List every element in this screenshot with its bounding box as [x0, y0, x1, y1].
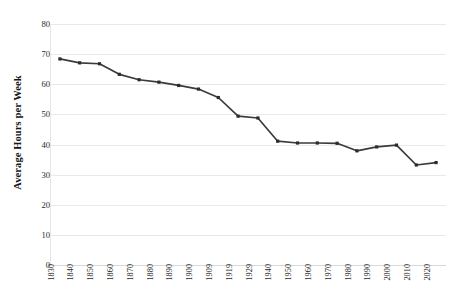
- data-point-marker: [395, 144, 398, 147]
- data-point-marker: [415, 163, 418, 166]
- data-series-line: [50, 24, 446, 265]
- x-axis-tick-label-text: 1840: [67, 264, 75, 281]
- data-point-marker: [118, 73, 121, 76]
- x-axis-tick-label-text: 1970: [325, 264, 333, 281]
- x-axis-tick-label-text: 1830: [47, 264, 55, 281]
- y-axis-tick-label: 50: [28, 110, 50, 119]
- x-axis-tick-label-text: 2010: [404, 264, 412, 281]
- data-point-marker: [296, 141, 299, 144]
- data-point-marker: [157, 81, 160, 84]
- y-axis-title: Average Hours per Week: [6, 0, 28, 265]
- data-point-marker: [316, 141, 319, 144]
- data-point-marker: [138, 78, 141, 81]
- x-axis-tick-label-text: 1919: [226, 264, 234, 281]
- data-point-marker: [256, 116, 259, 119]
- plot-area: [50, 24, 446, 265]
- x-axis-tick-label-text: 1890: [166, 264, 174, 281]
- data-point-marker: [375, 145, 378, 148]
- y-axis-tick-label: 20: [28, 200, 50, 209]
- data-point-marker: [177, 84, 180, 87]
- data-point-marker: [336, 142, 339, 145]
- x-axis-tick-label-text: 1960: [305, 264, 313, 281]
- data-point-marker: [276, 140, 279, 143]
- x-axis-tick-label: 2020: [416, 268, 456, 276]
- line-chart: Average Hours per Week 01020304050607080…: [0, 0, 463, 307]
- y-axis-tick-label: 30: [28, 170, 50, 179]
- x-axis-tick-label-text: 1940: [265, 264, 273, 281]
- data-point-marker: [78, 61, 81, 64]
- data-point-marker: [197, 87, 200, 90]
- x-axis-tick-label-text: 1850: [87, 264, 95, 281]
- x-axis-tick-label-text: 2020: [424, 264, 432, 281]
- y-axis-tick-label: 10: [28, 231, 50, 240]
- x-axis-tick-label-text: 1870: [127, 264, 135, 281]
- data-point-marker: [435, 161, 438, 164]
- series-line: [60, 59, 436, 165]
- data-point-marker: [98, 62, 101, 65]
- y-axis-tick-label: 60: [28, 80, 50, 89]
- x-axis-tick-label-text: 1860: [107, 264, 115, 281]
- y-axis-tick-label: 80: [28, 20, 50, 29]
- x-axis-tick-label-text: 1900: [186, 264, 194, 281]
- data-point-marker: [217, 96, 220, 99]
- x-axis-tick-label-text: 1880: [146, 264, 154, 281]
- y-axis-tick-labels: 01020304050607080: [28, 0, 50, 307]
- data-point-marker: [355, 149, 358, 152]
- x-axis-tick-labels: 1830184018501860187018801890190019091919…: [50, 265, 446, 307]
- data-point-marker: [58, 57, 61, 60]
- x-axis-tick-label-text: 1929: [245, 264, 253, 281]
- x-axis-tick-label-text: 1909: [206, 264, 214, 281]
- y-axis-title-label: Average Hours per Week: [12, 75, 23, 189]
- x-axis-tick-label-text: 1980: [344, 264, 352, 281]
- x-axis-tick-label-text: 2000: [384, 264, 392, 281]
- y-axis-tick-label: 40: [28, 140, 50, 149]
- y-axis-tick-label: 70: [28, 50, 50, 59]
- x-axis-tick-label-text: 1950: [285, 264, 293, 281]
- x-axis-tick-label-text: 1990: [364, 264, 372, 281]
- data-point-marker: [237, 115, 240, 118]
